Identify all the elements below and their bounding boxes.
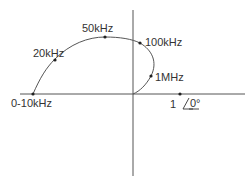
- reference-magnitude: 1: [170, 98, 176, 110]
- label-1mhz: 1MHz: [155, 71, 184, 83]
- reference-angle: 0°: [190, 97, 201, 109]
- polar-diagram: 0-10kHz 20kHz 50kHz 100kHz 1MHz 1 0°: [0, 0, 252, 185]
- label-50khz: 50kHz: [82, 22, 113, 34]
- point-50khz: [103, 35, 106, 38]
- label-20khz: 20kHz: [33, 47, 64, 59]
- point-unity: [178, 92, 181, 95]
- point-1mhz: [149, 74, 152, 77]
- label-100khz: 100kHz: [145, 36, 182, 48]
- unity-reference-label: 1 0°: [170, 97, 201, 110]
- point-0-10khz: [31, 92, 34, 95]
- label-0-10khz: 0-10kHz: [11, 97, 52, 109]
- point-100khz: [138, 41, 141, 44]
- frequency-locus-curve: [33, 37, 154, 94]
